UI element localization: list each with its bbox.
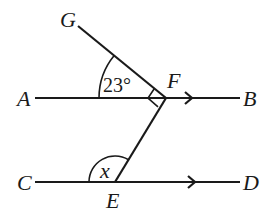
line-FE	[115, 98, 166, 182]
geometry-diagram: G F A B C D E 23° x	[0, 0, 276, 217]
angle-label-23: 23°	[103, 74, 131, 96]
point-label-D: D	[242, 170, 259, 195]
point-label-C: C	[17, 170, 32, 195]
point-label-B: B	[243, 86, 256, 111]
point-label-E: E	[105, 188, 120, 213]
point-label-F: F	[166, 68, 181, 93]
angle-label-x: x	[99, 158, 110, 183]
point-label-G: G	[60, 7, 76, 32]
point-label-A: A	[15, 86, 31, 111]
diagram-canvas: G F A B C D E 23° x	[0, 0, 276, 217]
